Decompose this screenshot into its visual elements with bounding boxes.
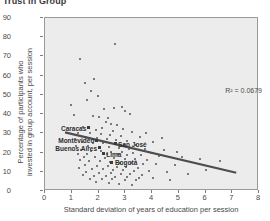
y-axis-title-line1: Percentage of participants who [16,25,25,200]
scatter-point [125,166,127,168]
scatter-point [110,123,112,125]
plot-area: CaracasMontevideoSan JoséBuenos AiresLim… [44,17,258,190]
r-squared-annotation: R² = 0.0679 [225,87,262,94]
x-axis-tick-mark [124,190,125,193]
scatter-point [137,167,139,169]
scatter-point [152,141,154,143]
scatter-point [92,115,94,117]
city-label: Bogotá [115,159,137,166]
x-axis-tick-label: 8 [248,193,268,202]
x-axis-tick-label: 2 [88,193,108,202]
scatter-point [70,104,72,106]
scatter-point [93,175,95,177]
scatter-point [102,168,104,170]
y-axis-tick-label: 0 [0,186,11,195]
scatter-point [166,171,168,173]
scatter-point [150,152,152,154]
y-axis-tick-label: 70 [0,51,11,60]
scatter-point [86,153,88,155]
chart-title: Trust in Group [3,0,66,6]
scatter-point [176,151,178,153]
city-marker [110,161,113,164]
scatter-point [98,172,100,174]
scatter-point [82,174,84,176]
y-axis-tick-label: 30 [0,128,11,137]
x-axis-tick-mark [71,190,72,193]
x-axis-tick-mark [44,190,45,193]
city-label: Montevideo [58,137,94,144]
y-axis-tick-label: 40 [0,109,11,118]
scatter-point [114,176,116,178]
city-label: Buenos Aires [55,144,97,151]
scatter-point [108,146,110,148]
y-axis-tick-mark [40,17,43,18]
y-axis-tick-label: 60 [0,70,11,79]
x-axis-title: Standard deviation of years of education… [44,205,258,214]
chart-container: Trust in Group CaracasMontevideoSan José… [0,0,270,221]
x-axis-tick-mark [151,190,152,193]
scatter-point [174,164,176,166]
y-axis-tick-mark [40,55,43,56]
scatter-point [120,173,122,175]
scatter-point [105,175,107,177]
y-axis-tick-label: 50 [0,89,11,98]
x-axis-tick-label: 5 [168,193,188,202]
x-axis-tick-label: 7 [221,193,241,202]
y-axis-tick-label: 10 [0,166,11,175]
scatter-point [163,149,165,151]
city-marker [87,126,90,129]
city-marker [95,139,98,142]
scatter-point [138,177,140,179]
scatter-point [116,124,118,126]
scatter-point [90,90,92,92]
city-marker [102,152,105,155]
scatter-point [97,95,99,97]
scatter-point [98,116,100,118]
city-marker [114,142,117,145]
scatter-point [129,173,131,175]
scatter-point [116,166,118,168]
scatter-point [142,163,144,165]
scatter-point [124,110,126,112]
scatter-point [73,114,75,116]
x-axis-tick-label: 3 [114,193,134,202]
y-axis-title: Percentage of participants who invested … [16,25,34,200]
scatter-point [110,172,112,174]
x-axis-tick-mark [205,190,206,193]
city-marker [98,146,101,149]
scatter-point [91,168,93,170]
city-label: Caracas [61,124,86,131]
y-axis-tick-mark [40,75,43,76]
scatter-point [107,117,109,119]
scatter-point [148,170,150,172]
y-axis-tick-mark [40,190,43,191]
y-axis-tick-mark [40,36,43,37]
y-axis-title-line2: invested in group account, per session [25,25,34,200]
scatter-point [105,121,107,123]
city-label: Lima [106,150,121,157]
scatter-point [107,165,109,167]
x-axis-tick-label: 6 [195,193,215,202]
x-axis-tick-mark [98,190,99,193]
y-axis-tick-label: 80 [0,32,11,41]
scatter-point [144,148,146,150]
x-axis-tick-mark [231,190,232,193]
scatter-point [205,169,207,171]
y-axis-tick-mark [40,152,43,153]
x-axis-tick-mark [178,190,179,193]
y-axis-tick-label: 20 [0,147,11,156]
y-axis-tick-mark [40,171,43,172]
trend-line [45,18,257,189]
scatter-point [141,174,143,176]
y-axis-tick-label: 90 [0,13,11,22]
scatter-point [133,170,135,172]
scatter-point [101,127,103,129]
scatter-point [187,173,189,175]
scatter-point [114,43,116,45]
y-axis-tick-mark [40,113,43,114]
y-axis-tick-mark [40,132,43,133]
x-axis-tick-label: 4 [141,193,161,202]
city-label: San José [118,140,147,147]
scatter-point [122,169,124,171]
x-axis-tick-label: 1 [61,193,81,202]
